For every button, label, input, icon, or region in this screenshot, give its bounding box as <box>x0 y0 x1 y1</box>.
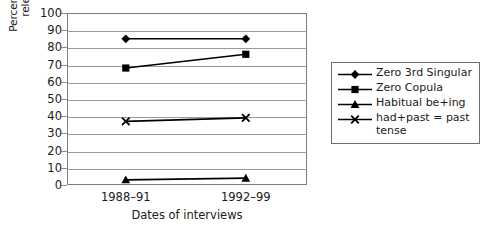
series-2 <box>122 51 249 72</box>
y-tick-label-20: 20 <box>22 144 62 158</box>
y-tick-label-50: 50 <box>22 92 62 106</box>
marker-diamond <box>351 70 360 79</box>
x-tick-label-1: 1988–91 <box>101 190 151 204</box>
legend-item-4[interactable]: had+past = pasttense <box>336 112 475 138</box>
y-tick-label-30: 30 <box>22 126 62 140</box>
chart-figure: Percentage of tokens in the relevant env… <box>0 0 484 232</box>
marker-diamond <box>121 34 130 43</box>
marker-diamond <box>241 34 250 43</box>
series-line <box>126 118 246 121</box>
y-tick-label-40: 40 <box>22 109 62 123</box>
series-3 <box>121 174 250 184</box>
legend-item-3[interactable]: Habitual be+ing <box>336 97 475 112</box>
y-tick-label-100: 100 <box>22 6 62 20</box>
legend-marker-cross-icon <box>336 112 374 127</box>
marker-square <box>351 86 358 93</box>
marker-square <box>122 64 129 71</box>
legend-label-4: had+past = pasttense <box>374 112 470 138</box>
y-tick-label-80: 80 <box>22 40 62 54</box>
legend-item-1[interactable]: Zero 3rd Singular <box>336 67 475 82</box>
y-tick-label-10: 10 <box>22 161 62 175</box>
series-line <box>126 54 246 68</box>
x-tick-label-2: 1992–99 <box>221 190 271 204</box>
series-1 <box>121 34 250 43</box>
series-layer <box>67 13 307 185</box>
legend-label-1: Zero 3rd Singular <box>374 67 472 80</box>
y-tick-label-70: 70 <box>22 58 62 72</box>
y-axis-title-line-1: Percentage of tokens in the <box>7 0 19 32</box>
series-4 <box>122 114 250 125</box>
legend-marker-diamond-icon <box>336 67 374 82</box>
legend-label-line-2: tense <box>376 125 470 138</box>
legend-label-2: Zero Copula <box>374 82 443 95</box>
y-tick-label-60: 60 <box>22 75 62 89</box>
x-axis-title: Dates of interviews <box>67 208 307 222</box>
legend-item-2[interactable]: Zero Copula <box>336 82 475 97</box>
y-tick-label-90: 90 <box>22 23 62 37</box>
y-tick-label-0: 0 <box>22 178 62 192</box>
chart-legend: Zero 3rd SingularZero CopulaHabitual be+… <box>331 62 480 144</box>
series-line <box>126 178 246 180</box>
y-tick-mark-0 <box>61 185 67 186</box>
legend-marker-triangle-icon <box>336 97 374 112</box>
marker-square <box>242 51 249 58</box>
legend-marker-square-icon <box>336 82 374 97</box>
legend-label-3: Habitual be+ing <box>374 97 466 110</box>
